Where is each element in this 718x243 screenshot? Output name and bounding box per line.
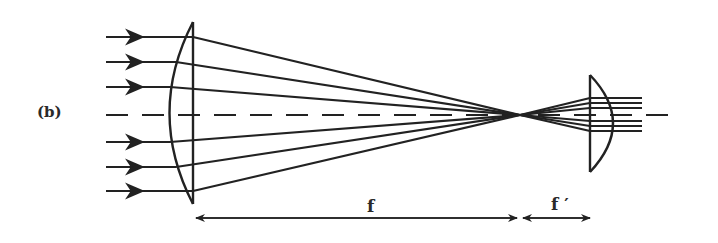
lens-2 [590,75,613,172]
focal-length-f-label: f [367,196,374,216]
optics-diagram: (b) f f ′ [0,0,718,243]
lens-1 [170,22,194,204]
panel-label: (b) [37,103,62,121]
focal-length-fprime-label: f ′ [551,194,569,214]
diagram-canvas [0,0,718,243]
